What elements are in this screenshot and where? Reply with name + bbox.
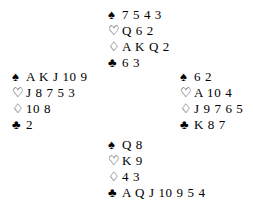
south-club-cards: A Q J 10 9 5 4 [121, 186, 206, 199]
east-spade-cards: 6 2 [193, 70, 212, 83]
south-diamond-row: ♢ 4 3 [108, 168, 206, 184]
east-club-row: ♣ K 8 7 [180, 116, 243, 132]
north-heart-cards: Q 6 2 [121, 24, 154, 37]
heart-icon: ♡ [180, 86, 193, 99]
north-diamond-cards: A K Q 2 [121, 40, 170, 53]
west-club-cards: 2 [25, 118, 33, 131]
spade-icon: ♠ [180, 70, 193, 83]
diamond-icon: ♢ [180, 102, 193, 115]
west-diamond-cards: 10 8 [25, 102, 51, 115]
north-club-cards: 6 3 [121, 56, 140, 69]
south-heart-row: ♡ K 9 [108, 152, 206, 168]
north-diamond-row: ♢ A K Q 2 [108, 38, 170, 54]
east-heart-row: ♡ A 10 4 [180, 84, 243, 100]
diamond-icon: ♢ [12, 102, 25, 115]
spade-icon: ♠ [12, 70, 25, 83]
east-club-cards: K 8 7 [193, 118, 226, 131]
south-club-row: ♣ A Q J 10 9 5 4 [108, 184, 206, 200]
north-heart-row: ♡ Q 6 2 [108, 22, 170, 38]
spade-icon: ♠ [108, 8, 121, 21]
club-icon: ♣ [108, 186, 121, 199]
club-icon: ♣ [108, 56, 121, 69]
west-diamond-row: ♢ 10 8 [12, 100, 88, 116]
south-diamond-cards: 4 3 [121, 170, 140, 183]
west-spade-row: ♠ A K J 10 9 [12, 68, 88, 84]
hand-north: ♠ 7 5 4 3 ♡ Q 6 2 ♢ A K Q 2 ♣ 6 3 [108, 6, 170, 70]
heart-icon: ♡ [108, 24, 121, 37]
hand-east: ♠ 6 2 ♡ A 10 4 ♢ J 9 7 6 5 ♣ K 8 7 [180, 68, 243, 132]
hand-south: ♠ Q 8 ♡ K 9 ♢ 4 3 ♣ A Q J 10 9 5 4 [108, 136, 206, 200]
south-heart-cards: K 9 [121, 154, 143, 167]
east-diamond-row: ♢ J 9 7 6 5 [180, 100, 243, 116]
north-club-row: ♣ 6 3 [108, 54, 170, 70]
diamond-icon: ♢ [108, 40, 121, 53]
east-spade-row: ♠ 6 2 [180, 68, 243, 84]
east-diamond-cards: J 9 7 6 5 [193, 102, 243, 115]
club-icon: ♣ [180, 118, 193, 131]
heart-icon: ♡ [12, 86, 25, 99]
west-heart-cards: J 8 7 5 3 [25, 86, 75, 99]
hand-west: ♠ A K J 10 9 ♡ J 8 7 5 3 ♢ 10 8 ♣ 2 [12, 68, 88, 132]
north-spade-cards: 7 5 4 3 [121, 8, 162, 21]
south-spade-row: ♠ Q 8 [108, 136, 206, 152]
club-icon: ♣ [12, 118, 25, 131]
west-club-row: ♣ 2 [12, 116, 88, 132]
bridge-hand-diagram: ♠ 7 5 4 3 ♡ Q 6 2 ♢ A K Q 2 ♣ 6 3 ♠ A K … [0, 0, 253, 208]
north-spade-row: ♠ 7 5 4 3 [108, 6, 170, 22]
spade-icon: ♠ [108, 138, 121, 151]
east-heart-cards: A 10 4 [193, 86, 232, 99]
west-heart-row: ♡ J 8 7 5 3 [12, 84, 88, 100]
west-spade-cards: A K J 10 9 [25, 70, 88, 83]
diamond-icon: ♢ [108, 170, 121, 183]
south-spade-cards: Q 8 [121, 138, 143, 151]
heart-icon: ♡ [108, 154, 121, 167]
